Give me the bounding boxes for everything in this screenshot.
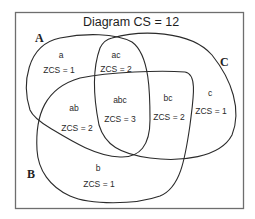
region-b-label: b xyxy=(96,164,101,173)
region-c-label: c xyxy=(208,89,212,98)
diagram-title: Diagram CS = 12 xyxy=(83,16,179,29)
set-c-label: C xyxy=(220,56,229,68)
region-abc-label: abc xyxy=(113,96,127,105)
set-a-label: A xyxy=(35,32,44,44)
region-bc-value: ZCS = 2 xyxy=(153,113,184,122)
region-a-label: a xyxy=(59,51,64,60)
region-ac-value: ZCS = 2 xyxy=(100,65,131,74)
region-abc-value: ZCS = 3 xyxy=(104,115,135,124)
set-b-label: B xyxy=(27,168,35,180)
region-ab-value: ZCS = 2 xyxy=(61,124,92,133)
region-ac-label: ac xyxy=(112,51,121,60)
region-b-value: ZCS = 1 xyxy=(83,180,114,189)
region-c-value: ZCS = 1 xyxy=(195,107,226,116)
region-bc-label: bc xyxy=(164,94,173,103)
region-a-value: ZCS = 1 xyxy=(43,66,74,75)
region-ab-label: ab xyxy=(69,104,78,113)
